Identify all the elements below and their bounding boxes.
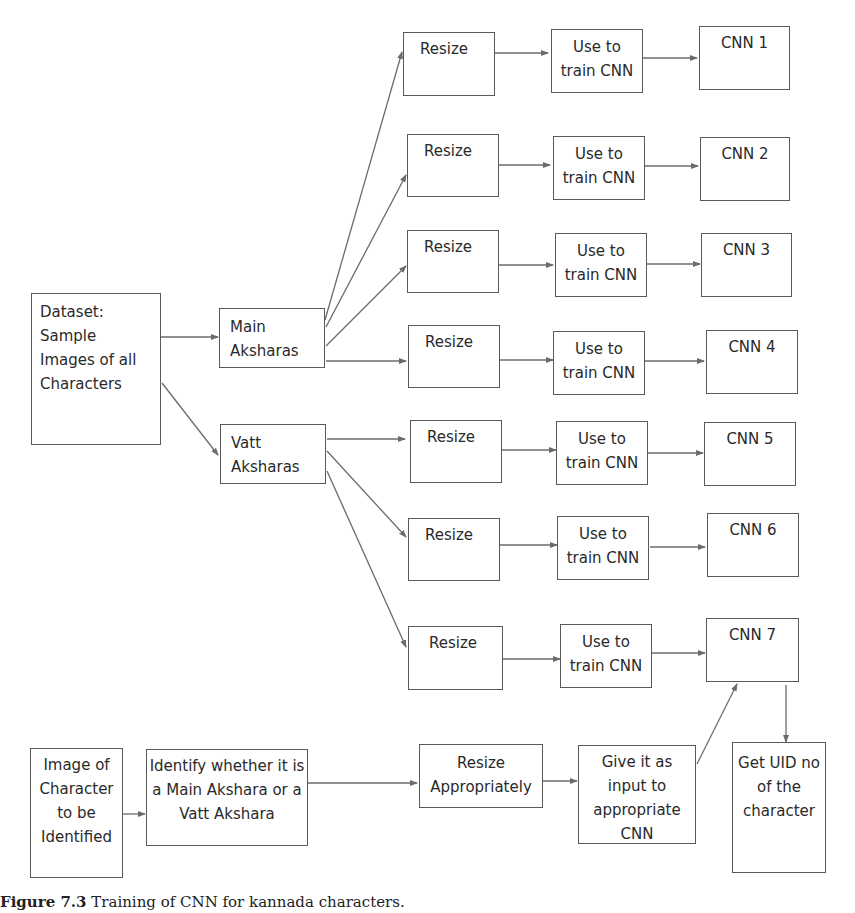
- node-train-4-label: Use to train CNN: [556, 337, 642, 385]
- node-resize-appropriately-label: Resize Appropriately: [422, 751, 540, 799]
- node-resize-6-label: Resize: [425, 523, 483, 547]
- node-get-uid-label: Get UID no of the character: [735, 751, 823, 823]
- node-train-4: Use to train CNN: [553, 331, 645, 395]
- node-cnn-1: CNN 1: [699, 26, 790, 90]
- node-resize-2: Resize: [407, 134, 499, 197]
- figure-caption-text: Training of CNN for kannada characters.: [87, 893, 405, 911]
- node-resize-7-label: Resize: [429, 631, 482, 655]
- node-train-2-label: Use to train CNN: [556, 142, 642, 190]
- node-cnn-4: CNN 4: [706, 330, 798, 394]
- node-resize-7: Resize: [408, 626, 503, 690]
- node-resize-2-label: Resize: [424, 139, 482, 163]
- node-resize-4-label: Resize: [425, 330, 483, 354]
- node-identify-type-label: Identify whether it is a Main Akshara or…: [149, 754, 305, 826]
- node-cnn-5: CNN 5: [704, 422, 796, 486]
- node-cnn-2: CNN 2: [700, 137, 790, 201]
- node-train-6-label: Use to train CNN: [560, 522, 646, 570]
- node-cnn-7-label: CNN 7: [709, 623, 796, 647]
- node-give-input: Give it as input to appropriate CNN: [578, 745, 696, 844]
- node-resize-5-label: Resize: [427, 425, 485, 449]
- node-cnn-4-label: CNN 4: [709, 335, 795, 359]
- node-train-1: Use to train CNN: [551, 29, 643, 93]
- node-cnn-2-label: CNN 2: [703, 142, 787, 166]
- node-resize-3-label: Resize: [424, 235, 482, 259]
- node-train-7: Use to train CNN: [560, 624, 652, 688]
- node-train-3: Use to train CNN: [555, 233, 647, 297]
- node-train-5: Use to train CNN: [556, 421, 648, 485]
- node-main-aksharas-label: Main Aksharas: [230, 315, 314, 363]
- node-cnn-1-label: CNN 1: [702, 31, 787, 55]
- node-train-3-label: Use to train CNN: [558, 239, 644, 287]
- node-image-to-identify: Image of Character to be Identified: [30, 748, 123, 878]
- node-dataset-label: Dataset: Sample Images of all Characters: [40, 300, 152, 396]
- node-cnn-3: CNN 3: [701, 233, 792, 297]
- arrow-main-to-resize-2: [326, 175, 406, 327]
- node-cnn-5-label: CNN 5: [707, 427, 793, 451]
- figure-caption: Figure 7.3 Training of CNN for kannada c…: [0, 893, 405, 911]
- arrow-main-to-resize-1: [325, 52, 402, 320]
- arrow-vatt-to-resize-6: [327, 451, 406, 537]
- node-dataset: Dataset: Sample Images of all Characters: [31, 293, 161, 445]
- node-identify-type: Identify whether it is a Main Akshara or…: [146, 749, 308, 846]
- node-main-aksharas: Main Aksharas: [219, 308, 325, 368]
- node-train-2: Use to train CNN: [553, 136, 645, 200]
- arrow-dataset-to-vatt: [162, 383, 218, 455]
- node-resize-5: Resize: [410, 420, 502, 483]
- arrow-give-to-cnn7: [697, 684, 737, 764]
- node-resize-1: Resize: [403, 32, 495, 96]
- arrow-vatt-to-resize-7: [327, 471, 406, 647]
- node-cnn-6-label: CNN 6: [710, 518, 796, 542]
- node-train-1-label: Use to train CNN: [554, 35, 640, 83]
- node-resize-3: Resize: [407, 230, 499, 293]
- node-train-7-label: Use to train CNN: [563, 630, 649, 678]
- node-train-6: Use to train CNN: [557, 516, 649, 580]
- node-resize-1-label: Resize: [420, 37, 478, 61]
- node-cnn-7: CNN 7: [706, 618, 799, 682]
- node-image-to-identify-label: Image of Character to be Identified: [33, 753, 120, 849]
- figure-caption-label: Figure 7.3: [0, 893, 87, 911]
- arrow-main-to-resize-3: [326, 266, 406, 346]
- node-resize-4: Resize: [408, 325, 500, 388]
- node-resize-6: Resize: [408, 518, 500, 581]
- node-resize-appropriately: Resize Appropriately: [419, 744, 543, 808]
- node-vatt-aksharas: Vatt Aksharas: [220, 424, 326, 484]
- node-get-uid: Get UID no of the character: [732, 742, 826, 873]
- node-cnn-3-label: CNN 3: [704, 238, 789, 262]
- node-give-input-label: Give it as input to appropriate CNN: [583, 750, 691, 846]
- node-train-5-label: Use to train CNN: [559, 427, 645, 475]
- node-vatt-aksharas-label: Vatt Aksharas: [231, 431, 315, 479]
- node-cnn-6: CNN 6: [707, 513, 799, 577]
